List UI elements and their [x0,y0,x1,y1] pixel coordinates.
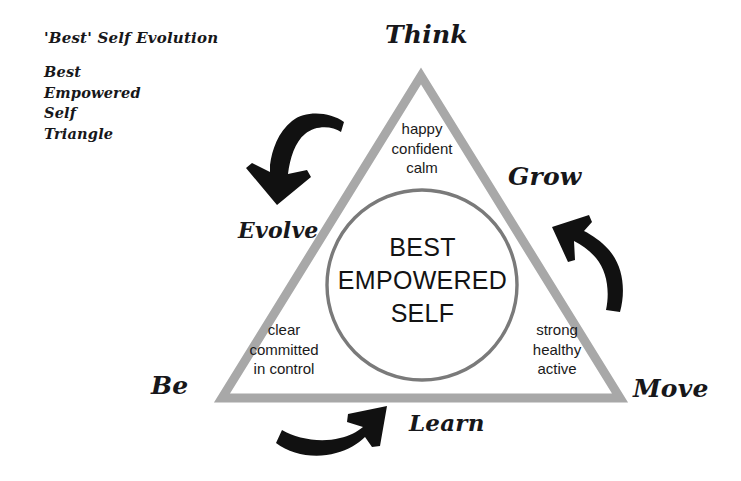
attribute-group-think: happy confident calm [374,119,470,178]
center-label-line2: EMPOWERED [330,264,515,297]
attribute-word: in control [238,359,330,379]
attribute-word: active [513,359,601,379]
center-label-line3: SELF [330,297,515,330]
center-label: BEST EMPOWERED SELF [330,231,515,330]
diagram-canvas: 'Best' Self Evolution Best Empowered Sel… [0,0,741,481]
attribute-group-move: strong healthy active [513,320,601,379]
cycle-label-learn: Learn [409,409,485,437]
vertex-label-move: Move [633,375,709,403]
cycle-label-evolve: Evolve [238,216,319,244]
attribute-word: committed [238,340,330,360]
attribute-word: calm [374,158,470,178]
vertex-label-grow: Grow [508,163,582,191]
attribute-word: confident [374,139,470,159]
vertex-label-be: Be [151,372,188,400]
vertex-label-think: Think [385,21,468,49]
attribute-word: happy [374,119,470,139]
attribute-word: clear [238,320,330,340]
center-label-line1: BEST [330,231,515,264]
attribute-group-be: clear committed in control [238,320,330,379]
attribute-word: strong [513,320,601,340]
attribute-word: healthy [513,340,601,360]
